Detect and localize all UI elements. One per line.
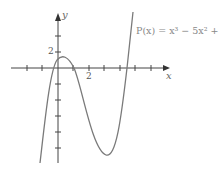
- polynomial-curve: [40, 12, 133, 163]
- function-label: P(x) = x³ − 5x² + 2: [136, 25, 220, 36]
- y-tick-label-2: 2: [48, 46, 54, 56]
- y-axis: [55, 20, 61, 163]
- x-tick-label-2: 2: [86, 71, 92, 81]
- x-axis-label: x: [166, 70, 172, 81]
- y-axis-arrow-icon: [55, 13, 61, 21]
- y-axis-label: y: [62, 9, 68, 20]
